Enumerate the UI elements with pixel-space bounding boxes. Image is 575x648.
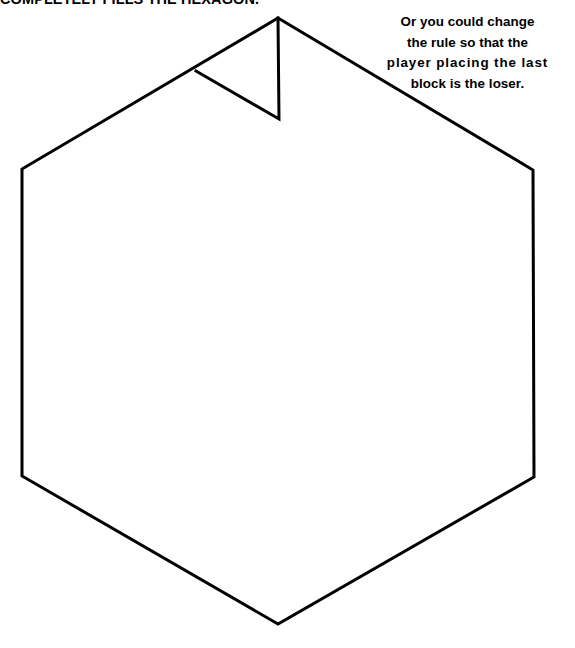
hexagon-diagram xyxy=(0,0,575,648)
caption-line-3: player placing the last xyxy=(360,53,575,74)
caption-block: Or you could change the rule so that the… xyxy=(360,12,575,94)
figure-page: COMPLETELY FILLS THE HEXAGON. Or you cou… xyxy=(0,0,575,648)
caption-line-4: block is the loser. xyxy=(360,74,575,95)
caption-line-1: Or you could change xyxy=(360,12,575,33)
caption-line-2: the rule so that the xyxy=(360,33,575,54)
